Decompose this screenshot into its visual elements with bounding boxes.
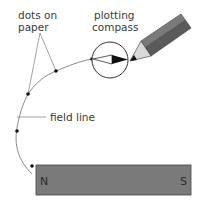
dots-label-line1: dots on (18, 9, 57, 21)
magnet-body (36, 165, 191, 195)
dots-label-line2: paper (18, 21, 49, 33)
bar-magnet: N S (36, 165, 191, 195)
magnet-north-label: N (40, 175, 48, 188)
dot-marker (54, 69, 58, 73)
dot-marker (15, 129, 19, 133)
dot-marker (30, 164, 34, 168)
compass-label-line2: compass (92, 21, 138, 33)
plotting-compass (92, 42, 128, 78)
compass-label-line1: plotting (94, 9, 134, 21)
dot-marker (26, 92, 30, 96)
magnetic-field-diagram: N S dots on paper plotting compass field… (0, 0, 208, 215)
magnet-south-label: S (180, 175, 187, 188)
dots-pointer-line-2 (40, 33, 56, 71)
pencil-icon (130, 14, 191, 61)
dots-pointer-line-1 (28, 33, 40, 94)
field-line-label: field line (50, 111, 95, 123)
